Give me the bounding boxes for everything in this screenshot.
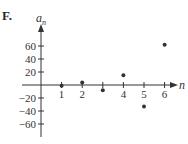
x-tick-label: 4	[121, 88, 127, 100]
x-tick-label: 1	[59, 88, 65, 100]
scatter-chart: ann604020−20−40−6012456	[0, 0, 188, 144]
y-tick-label: −40	[19, 105, 37, 117]
y-tick-label: −20	[19, 92, 37, 104]
x-axis-label: n	[179, 78, 185, 92]
y-tick-label: 40	[25, 53, 37, 65]
y-tick-label: −60	[19, 118, 37, 130]
x-axis-arrow-icon	[170, 82, 178, 88]
x-tick-label: 5	[141, 88, 147, 100]
data-point	[121, 73, 125, 77]
data-point	[60, 84, 64, 88]
data-point	[80, 80, 84, 84]
y-tick-label: 20	[25, 66, 37, 78]
y-tick-label: 60	[25, 40, 37, 52]
data-point	[142, 104, 146, 108]
x-tick-label: 6	[162, 88, 168, 100]
data-point	[101, 88, 105, 92]
x-tick-label: 2	[79, 88, 85, 100]
y-axis-label: an	[36, 11, 46, 27]
data-point	[163, 43, 167, 47]
